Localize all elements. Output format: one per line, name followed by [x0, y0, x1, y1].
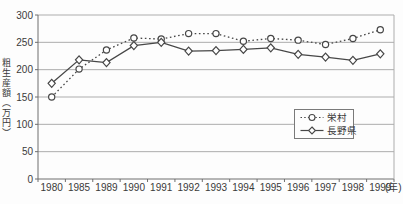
line-chart: 0501001502002503001980198519891990199119…: [0, 0, 403, 204]
solid-line-diamond-marker-icon: [300, 126, 324, 135]
dotted-line-circle-marker-icon: [300, 113, 324, 122]
x-tick-label: 1996: [287, 182, 310, 193]
x-tick-label: 1998: [342, 182, 365, 193]
y-tick-label: 100: [16, 119, 33, 130]
circle-marker: [186, 30, 192, 36]
y-tick-label: 150: [16, 92, 33, 103]
x-tick-label: 1995: [260, 182, 283, 193]
x-tick-label: 1993: [205, 182, 228, 193]
x-tick-label: 1989: [95, 182, 118, 193]
y-tick-label: 0: [27, 174, 33, 185]
circle-marker: [240, 38, 246, 44]
circle-marker: [76, 66, 82, 72]
circle-marker: [103, 47, 109, 53]
chart-page: 粗生産額（万円） 0501001502002503001980198519891…: [0, 0, 403, 204]
y-tick-label: 200: [16, 64, 33, 75]
circle-marker: [268, 35, 274, 41]
x-tick-label: 1992: [177, 182, 200, 193]
legend-item-nagano: 長野県: [300, 126, 349, 136]
x-tick-label: 1980: [41, 182, 64, 193]
gridlines: [38, 15, 394, 179]
diamond-marker: [349, 56, 356, 64]
circle-marker: [131, 35, 137, 41]
diamond-marker: [322, 53, 329, 61]
legend-label-sakae: 栄村: [327, 113, 347, 123]
series-栄村: [49, 27, 384, 100]
diamond-marker: [240, 45, 247, 53]
series-line-dotted: [52, 30, 381, 97]
x-tick-label: 1985: [68, 182, 91, 193]
legend-item-sakae: 栄村: [300, 113, 349, 123]
circle-marker: [49, 94, 55, 100]
diamond-marker: [103, 59, 110, 67]
x-tick-label: 1997: [314, 182, 337, 193]
circle-marker: [377, 27, 383, 33]
axis-labels: 0501001502002503001980198519891990199119…: [16, 10, 401, 194]
circle-marker: [350, 35, 356, 41]
x-tick-label: 1994: [232, 182, 255, 193]
circle-marker: [295, 37, 301, 43]
axes: [35, 15, 394, 182]
y-tick-label: 300: [16, 10, 33, 21]
legend: 栄村 長野県: [294, 109, 354, 139]
y-tick-label: 50: [22, 146, 34, 157]
legend-label-nagano: 長野県: [327, 126, 357, 136]
diamond-marker: [185, 47, 192, 55]
x-tick-label: 1991: [150, 182, 173, 193]
diamond-marker: [295, 50, 302, 58]
circle-marker: [213, 30, 219, 36]
y-tick-label: 250: [16, 37, 33, 48]
series: [48, 27, 384, 100]
diamond-marker: [267, 44, 274, 52]
circle-marker: [322, 41, 328, 47]
series-長野県: [48, 38, 384, 87]
x-axis-unit-label: (年): [385, 181, 402, 193]
x-tick-label: 1990: [123, 182, 146, 193]
diamond-marker: [212, 47, 219, 55]
diamond-marker: [377, 50, 384, 58]
